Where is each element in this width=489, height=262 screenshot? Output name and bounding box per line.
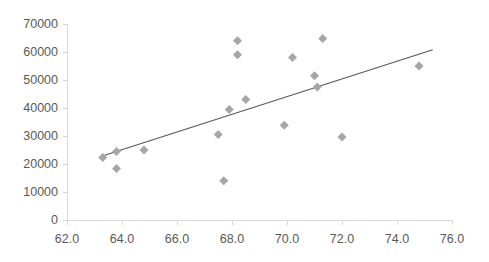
data-point-marker bbox=[310, 71, 319, 80]
y-tick-label: 30000 bbox=[0, 130, 58, 143]
x-tick-label: 64.0 bbox=[110, 233, 134, 246]
data-point-marker bbox=[219, 176, 228, 185]
x-tick-label: 62.0 bbox=[55, 233, 79, 246]
data-point-marker bbox=[140, 146, 149, 155]
x-tick-label: 70.0 bbox=[275, 233, 299, 246]
y-tick-label: 70000 bbox=[0, 18, 58, 31]
data-point-marker bbox=[112, 164, 121, 173]
tick-marks bbox=[63, 24, 452, 225]
data-point-marker bbox=[415, 62, 424, 71]
data-point-marker bbox=[313, 83, 322, 92]
x-tick-label: 66.0 bbox=[165, 233, 189, 246]
y-tick-label: 20000 bbox=[0, 158, 58, 171]
y-tick-label: 60000 bbox=[0, 46, 58, 59]
data-point-marker bbox=[288, 53, 297, 62]
y-tick-label: 0 bbox=[0, 214, 58, 227]
x-tick-label: 68.0 bbox=[220, 233, 244, 246]
data-point-marker bbox=[112, 147, 121, 156]
y-tick-label: 40000 bbox=[0, 102, 58, 115]
x-tick-label: 74.0 bbox=[385, 233, 409, 246]
trendline-path bbox=[100, 50, 433, 157]
scatter-chart: 010000200003000040000500006000070000 62.… bbox=[0, 0, 489, 262]
data-point-marker bbox=[280, 121, 289, 130]
data-points bbox=[98, 34, 423, 185]
data-point-marker bbox=[338, 133, 347, 142]
data-point-marker bbox=[233, 50, 242, 59]
plot-area bbox=[0, 0, 489, 262]
trendline bbox=[100, 50, 433, 157]
axis-lines bbox=[67, 24, 452, 220]
data-point-marker bbox=[225, 105, 234, 114]
data-point-marker bbox=[233, 36, 242, 45]
data-point-marker bbox=[241, 95, 250, 104]
x-tick-label: 76.0 bbox=[440, 233, 464, 246]
x-tick-label: 72.0 bbox=[330, 233, 354, 246]
data-point-marker bbox=[318, 34, 327, 43]
y-tick-label: 10000 bbox=[0, 186, 58, 199]
y-tick-label: 50000 bbox=[0, 74, 58, 87]
data-point-marker bbox=[214, 130, 223, 139]
